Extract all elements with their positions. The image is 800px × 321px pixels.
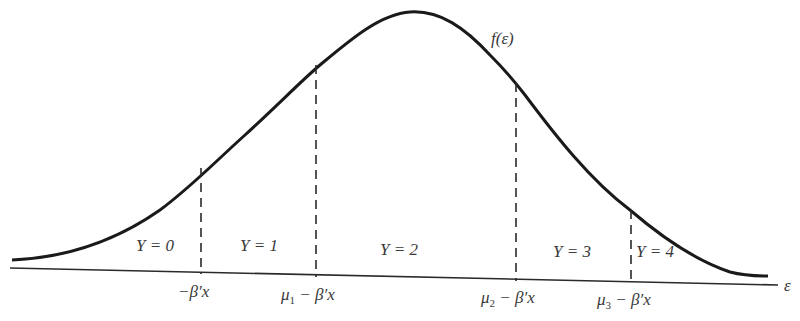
threshold-label-3: μ3 − β′x xyxy=(597,291,651,311)
threshold-expr: − β′x xyxy=(295,285,335,304)
threshold-mu: μ xyxy=(481,288,490,307)
region-label-y1: Y = 1 xyxy=(240,237,278,254)
threshold-mu: μ xyxy=(597,290,606,309)
region-label-text: Y = 4 xyxy=(636,242,674,261)
region-label-y0: Y = 0 xyxy=(136,237,174,254)
region-label-y3: Y = 3 xyxy=(553,243,591,260)
region-label-text: Y = 3 xyxy=(553,242,591,261)
region-label-y4: Y = 4 xyxy=(636,243,674,260)
ordered-probit-diagram: f(ε) Y = 0 Y = 1 Y = 2 Y = 3 Y = 4 −β′x … xyxy=(0,0,800,321)
region-label-text: Y = 0 xyxy=(136,236,174,255)
threshold-label-2: μ2 − β′x xyxy=(481,289,535,309)
region-label-text: Y = 1 xyxy=(240,236,278,255)
region-label-y2: Y = 2 xyxy=(380,241,418,258)
axis-label-epsilon: ε xyxy=(784,277,791,294)
diagram-canvas xyxy=(0,0,800,321)
threshold-expr: − β′x xyxy=(611,290,651,309)
region-label-text: Y = 2 xyxy=(380,240,418,259)
threshold-expr: − β′x xyxy=(495,288,535,307)
density-curve xyxy=(12,12,768,276)
threshold-mu: μ xyxy=(281,285,290,304)
threshold-label-0: −β′x xyxy=(178,283,209,300)
epsilon-axis xyxy=(10,268,778,285)
curve-label: f(ε) xyxy=(491,30,514,47)
threshold-label-1: μ1 − β′x xyxy=(281,286,335,306)
threshold-expr: −β′x xyxy=(178,282,209,301)
